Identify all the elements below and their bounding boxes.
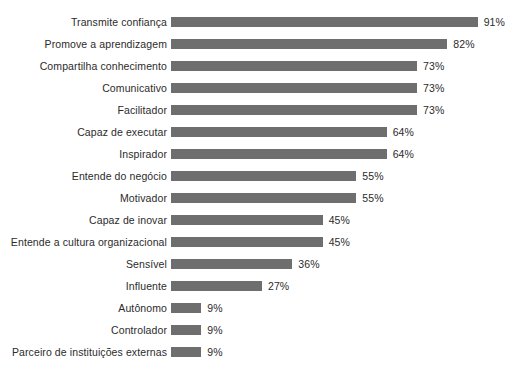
bar-row: Controlador9% xyxy=(0,319,512,341)
bar-value-label: 55% xyxy=(362,187,383,209)
bar-value-label: 9% xyxy=(207,319,222,341)
bar-rows-container: Transmite confiança91%Promove a aprendiz… xyxy=(0,11,512,363)
bar-row: Parceiro de instituições externas9% xyxy=(0,341,512,363)
bar-fill xyxy=(171,83,417,93)
bar-row: Entende a cultura organizacional45% xyxy=(0,231,512,253)
bar-category-label: Controlador xyxy=(111,319,167,341)
bar-track: 55% xyxy=(171,187,512,209)
bar-row: Autônomo9% xyxy=(0,297,512,319)
bar-category-label: Parceiro de instituições externas xyxy=(12,341,167,363)
bar-fill xyxy=(171,61,417,71)
bar-track: 9% xyxy=(171,297,512,319)
bar-track: 64% xyxy=(171,121,512,143)
bar-fill xyxy=(171,149,387,159)
bar-row: Compartilha conhecimento73% xyxy=(0,55,512,77)
bar-row: Transmite confiança91% xyxy=(0,11,512,33)
bar-track: 9% xyxy=(171,319,512,341)
bar-track: 82% xyxy=(171,33,512,55)
bar-fill xyxy=(171,303,201,313)
bar-fill xyxy=(171,259,292,269)
bar-chart: Transmite confiança91%Promove a aprendiz… xyxy=(0,0,512,368)
bar-value-label: 45% xyxy=(329,209,350,231)
bar-fill xyxy=(171,325,201,335)
bar-track: 73% xyxy=(171,55,512,77)
bar-value-label: 64% xyxy=(393,143,414,165)
bar-value-label: 91% xyxy=(484,11,505,33)
bar-track: 91% xyxy=(171,11,512,33)
bar-track: 45% xyxy=(171,209,512,231)
bar-row: Facilitador73% xyxy=(0,99,512,121)
bar-value-label: 45% xyxy=(329,231,350,253)
bar-category-label: Promove a aprendizagem xyxy=(45,33,167,55)
bar-fill xyxy=(171,39,447,49)
bar-track: 73% xyxy=(171,77,512,99)
bar-category-label: Entende do negócio xyxy=(72,165,167,187)
bar-row: Influente27% xyxy=(0,275,512,297)
bar-track: 45% xyxy=(171,231,512,253)
bar-category-label: Influente xyxy=(126,275,167,297)
bar-fill xyxy=(171,17,478,27)
bar-track: 73% xyxy=(171,99,512,121)
bar-fill xyxy=(171,127,387,137)
bar-category-label: Autônomo xyxy=(118,297,167,319)
bar-fill xyxy=(171,193,356,203)
bar-fill xyxy=(171,171,356,181)
bar-category-label: Facilitador xyxy=(117,99,167,121)
bar-row: Promove a aprendizagem82% xyxy=(0,33,512,55)
bar-fill xyxy=(171,347,201,357)
bar-row: Sensível36% xyxy=(0,253,512,275)
bar-category-label: Motivador xyxy=(120,187,167,209)
bar-category-label: Capaz de executar xyxy=(77,121,167,143)
bar-fill xyxy=(171,281,262,291)
bar-track: 36% xyxy=(171,253,512,275)
bar-value-label: 36% xyxy=(298,253,319,275)
bar-value-label: 9% xyxy=(207,297,222,319)
bar-track: 64% xyxy=(171,143,512,165)
bar-category-label: Transmite confiança xyxy=(71,11,167,33)
bar-track: 9% xyxy=(171,341,512,363)
bar-fill xyxy=(171,215,323,225)
bar-fill xyxy=(171,237,323,247)
bar-track: 27% xyxy=(171,275,512,297)
bar-track: 55% xyxy=(171,165,512,187)
bar-category-label: Entende a cultura organizacional xyxy=(11,231,167,253)
bar-fill xyxy=(171,105,417,115)
bar-category-label: Compartilha conhecimento xyxy=(40,55,167,77)
bar-value-label: 82% xyxy=(453,33,474,55)
bar-category-label: Capaz de inovar xyxy=(89,209,167,231)
bar-value-label: 73% xyxy=(423,99,444,121)
bar-value-label: 9% xyxy=(207,341,222,363)
bar-category-label: Comunicativo xyxy=(102,77,167,99)
bar-row: Capaz de inovar45% xyxy=(0,209,512,231)
bar-value-label: 55% xyxy=(362,165,383,187)
bar-category-label: Inspirador xyxy=(119,143,167,165)
bar-value-label: 27% xyxy=(268,275,289,297)
bar-row: Comunicativo73% xyxy=(0,77,512,99)
bar-value-label: 73% xyxy=(423,77,444,99)
bar-row: Capaz de executar64% xyxy=(0,121,512,143)
bar-value-label: 64% xyxy=(393,121,414,143)
bar-row: Entende do negócio55% xyxy=(0,165,512,187)
bar-value-label: 73% xyxy=(423,55,444,77)
bar-row: Inspirador64% xyxy=(0,143,512,165)
bar-row: Motivador55% xyxy=(0,187,512,209)
bar-category-label: Sensível xyxy=(126,253,167,275)
